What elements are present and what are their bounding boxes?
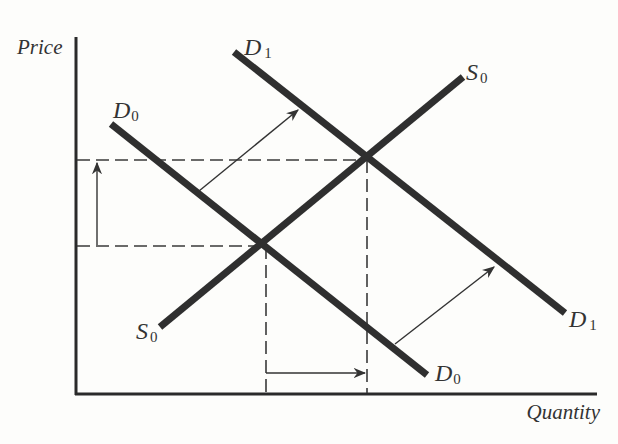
demand-curve-d1 <box>234 52 565 313</box>
y-axis-label: Price <box>16 35 62 59</box>
label-s0-top: S0 <box>466 59 488 86</box>
x-axis-label: Quantity <box>527 400 601 424</box>
demand-curve-d0 <box>111 124 427 375</box>
label-d0-bottom: D0 <box>434 360 461 387</box>
curves <box>111 52 565 375</box>
label-d1-bottom: D1 <box>568 306 597 333</box>
supply-demand-diagram: Price Quantity D0 D1 S0 S0 <box>0 0 618 444</box>
curve-labels: D0 D1 S0 S0 D1 D0 <box>112 34 597 387</box>
axes: Price Quantity <box>16 35 601 424</box>
label-d0-top: D0 <box>112 97 139 124</box>
label-s0-bottom: S0 <box>136 318 158 345</box>
demand-shift-arrow-lower <box>395 267 494 344</box>
demand-shift-arrow-upper <box>199 110 298 191</box>
label-d1-top: D1 <box>243 34 272 61</box>
